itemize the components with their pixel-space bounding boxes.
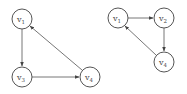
right-graph: v1 v2 v4 [108,8,174,72]
node-v2: v2 [154,8,174,28]
node-v4: v4 [154,52,174,72]
node-v1: v1 [108,8,128,28]
node-v3: v3 [12,67,32,87]
node-v4: v4 [80,67,100,87]
left-graph: v1 v3 v4 [12,9,100,87]
node-v1: v1 [12,9,32,29]
directed-graphs-diagram: v1 v3 v4 v1 v2 v4 [0,0,187,94]
edge-v4-to-v1 [30,26,82,70]
edge-v4-to-v1 [125,26,156,55]
